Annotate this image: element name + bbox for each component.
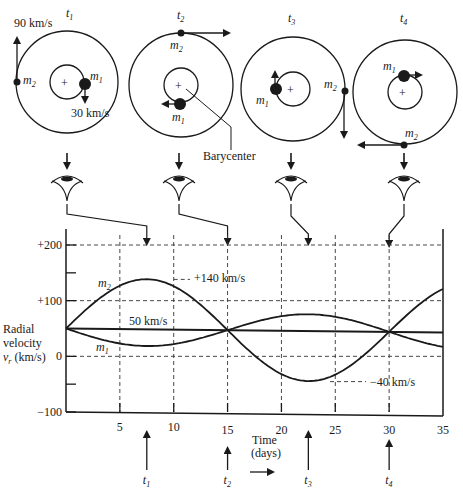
eye-pupil-icon bbox=[398, 176, 410, 181]
orbit-panel-t2: t2 + m2 m1 Barycenter bbox=[129, 8, 256, 163]
x-tick-label: 10 bbox=[168, 420, 180, 434]
x-ticks: 5101520253035 bbox=[117, 403, 449, 437]
observer-2 bbox=[163, 153, 228, 244]
time-label-t3: t3 bbox=[288, 11, 295, 27]
m2-label: m2 bbox=[23, 73, 36, 89]
x-tick-label: 30 bbox=[383, 423, 395, 437]
time-label-t1: t1 bbox=[66, 6, 73, 22]
m1-label: m1 bbox=[383, 59, 396, 75]
m2-label: m2 bbox=[170, 38, 183, 54]
barycenter-cross-icon: + bbox=[287, 83, 294, 97]
x-tick-label: 35 bbox=[437, 423, 449, 437]
eye-pupil-icon bbox=[173, 176, 185, 181]
y-axis-label-line1: Radial bbox=[3, 322, 35, 336]
m2-star bbox=[401, 142, 408, 149]
observer-connector-arrow bbox=[389, 204, 404, 246]
m2-speed-label: 90 km/s bbox=[14, 16, 53, 30]
m1-label: m1 bbox=[90, 69, 103, 85]
observer-connector-arrow bbox=[67, 204, 147, 244]
observer-3 bbox=[275, 153, 308, 244]
observer-connector-arrow bbox=[291, 204, 308, 244]
series-label-m2: m2 bbox=[98, 276, 111, 292]
m1-star bbox=[398, 70, 410, 82]
time-marker-label-t4: t4 bbox=[385, 473, 392, 489]
orbit-panel-t3: t3 + m2 m1 bbox=[241, 11, 349, 141]
y-tick-label: −100 bbox=[37, 405, 62, 419]
time-marker-label-t3: t3 bbox=[304, 473, 311, 489]
barycenter-label: Barycenter bbox=[203, 149, 256, 163]
time-marker-label-t2: t2 bbox=[224, 473, 231, 489]
orbit-panel-t4: t4 + m2 m1 bbox=[353, 11, 457, 149]
y-tick-label: +200 bbox=[37, 238, 62, 252]
curves: m2m1 bbox=[66, 276, 443, 381]
time-marker-label-t1: t1 bbox=[143, 473, 150, 489]
radial-velocity-chart: +200+1000−100 5101520253035 m2m1 +140 km… bbox=[3, 229, 449, 489]
x-axis-label-time: Time bbox=[252, 433, 277, 447]
m2-label: m2 bbox=[405, 126, 418, 142]
time-label-t4: t4 bbox=[400, 11, 407, 27]
y-tick-label: +100 bbox=[37, 294, 62, 308]
annotation-trough: −40 km/s bbox=[370, 375, 415, 389]
series-label-m1: m1 bbox=[96, 340, 109, 356]
time-label-t2: t2 bbox=[177, 8, 184, 24]
x-axis-label-days: (days) bbox=[251, 446, 281, 460]
observer-connector-arrow bbox=[179, 204, 228, 244]
y-tick-label: 0 bbox=[56, 349, 62, 363]
eye-pupil-icon bbox=[285, 176, 297, 181]
m1-speed-label: 30 km/s bbox=[71, 106, 110, 120]
barycenter-cross-icon: + bbox=[399, 86, 406, 100]
observer-4 bbox=[388, 153, 420, 246]
m1-star bbox=[270, 83, 282, 95]
m2-label: m2 bbox=[324, 77, 337, 93]
annotation-peak: +140 km/s bbox=[194, 271, 245, 285]
eye-pupil-icon bbox=[61, 176, 73, 181]
y-axis-label-line3: vr (km/s) bbox=[3, 350, 46, 366]
barycenter-cross-icon: + bbox=[175, 79, 182, 93]
m1-label: m1 bbox=[172, 110, 185, 126]
observers bbox=[51, 153, 420, 246]
orbit-panel-t1: t1 + 90 km/s m2 m1 30 km/s bbox=[14, 6, 119, 133]
barycenter-cross-icon: + bbox=[61, 76, 68, 90]
radial-velocity-diagram: t1 + 90 km/s m2 m1 30 km/s t2 + m2 m1 Ba… bbox=[0, 0, 463, 490]
m2-star bbox=[178, 30, 185, 37]
x-tick-label: 20 bbox=[275, 423, 287, 437]
x-tick-label: 25 bbox=[329, 423, 341, 437]
annotation-systemic: 50 km/s bbox=[129, 314, 168, 328]
m2-star bbox=[342, 88, 349, 95]
x-tick-label: 15 bbox=[222, 423, 234, 437]
m1-label: m1 bbox=[256, 93, 269, 109]
x-tick-label: 5 bbox=[117, 420, 123, 434]
y-axis-label-line2: velocity bbox=[3, 336, 42, 350]
x-axis-line bbox=[66, 412, 443, 416]
